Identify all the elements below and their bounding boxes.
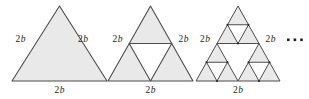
vertex-dot (216, 80, 218, 82)
stage-2-right-label: 2b (266, 34, 276, 44)
stage-2-sub-triangle-bottomleft-left (196, 62, 217, 81)
sierpinski-figure: 2b 2b 2b 2b 2b 2b (0, 0, 309, 99)
vertex-dot (248, 24, 250, 26)
stage-1-right-label: 2b (179, 34, 189, 44)
stage-1-sub-triangle-top (129, 6, 172, 44)
sierpinski-diagram: 2b 2b 2b 2b 2b 2b (0, 0, 309, 99)
ellipsis-dot (287, 39, 290, 42)
stage-2-sub-triangle-bottomright-left (238, 62, 259, 81)
stage-2-bottom-label: 2b (233, 85, 243, 95)
stage-2-group: 2b 2b 2b (196, 6, 280, 95)
vertex-dot (248, 61, 250, 63)
vertex-dot (227, 61, 229, 63)
stage-2-sub-triangle-bottomright-top (249, 44, 270, 63)
stage-0-right-label: 2b (78, 34, 88, 44)
stage-0-bottom-label: 2b (55, 85, 65, 95)
stage-2-sub-triangle-top-top (228, 6, 249, 25)
stage-1-group: 2b 2b 2b (108, 6, 193, 95)
stage-1-sub-triangle-bottom-right (151, 44, 194, 82)
ellipsis-dot (294, 39, 297, 42)
vertex-dot (227, 24, 229, 26)
vertex-dot (206, 61, 208, 63)
stage-2-left-label: 2b (200, 34, 210, 44)
stage-2-sub-triangle-bottomleft-right (217, 62, 238, 81)
vertex-dot (258, 80, 260, 82)
vertex-dot (237, 43, 239, 45)
stage-2-sub-triangle-bottomright-right (259, 62, 280, 81)
stage-2-sub-triangle-bottomleft-top (207, 44, 228, 63)
ellipsis-dot (300, 39, 303, 42)
stage-2-sub-triangle-top-right (238, 25, 259, 44)
stage-1-left-label: 2b (113, 34, 123, 44)
continuation-ellipsis-icon (287, 39, 303, 42)
vertex-dot (269, 61, 271, 63)
stage-2-sub-triangle-top-left (217, 25, 238, 44)
stage-0-outer-triangle (12, 6, 107, 81)
stage-0-group: 2b 2b 2b (12, 6, 107, 95)
stage-0-left-label: 2b (16, 34, 26, 44)
stage-1-bottom-label: 2b (146, 85, 156, 95)
stage-1-sub-triangle-bottom-left (108, 44, 151, 82)
